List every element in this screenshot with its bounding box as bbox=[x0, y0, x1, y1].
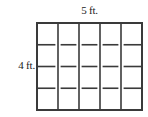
interior-grid-lines bbox=[37, 23, 142, 110]
unit-square-grid bbox=[0, 0, 148, 117]
area-model-figure: 5 ft. 4 ft. bbox=[0, 0, 148, 117]
